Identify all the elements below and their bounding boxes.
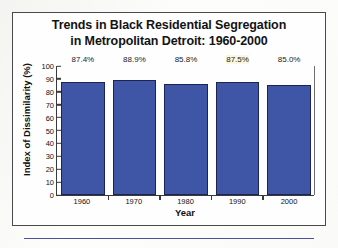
bar-value-label: 85.0%	[278, 55, 301, 64]
plot-frame: 0102030405060708090100 87.4%88.9%85.8%87…	[56, 66, 314, 196]
bar-value-label: 87.4%	[72, 55, 95, 64]
y-axis-tick-label: 30	[46, 152, 57, 161]
bar-slot: 87.5%	[216, 66, 260, 195]
chart-title-line-1: Trends in Black Residential Segregation	[13, 18, 325, 34]
x-axis-tick-label: 1960	[60, 197, 104, 206]
bar-value-label: 88.9%	[123, 55, 146, 64]
y-axis-tick-label: 40	[46, 139, 57, 148]
bar-1960[interactable]	[61, 82, 105, 195]
y-axis-tick-label: 10	[46, 178, 57, 187]
bar-slot: 85.0%	[267, 66, 311, 195]
x-axis-tick-label: 1990	[215, 197, 259, 206]
bar-1980[interactable]	[164, 84, 208, 195]
y-axis-tick-label: 60	[46, 113, 57, 122]
y-axis-tick-label: 90	[46, 74, 57, 83]
chart-title: Trends in Black Residential Segregation …	[13, 18, 325, 49]
x-axis-tick-labels: 19601970198019902000	[56, 197, 314, 206]
bar-slot: 87.4%	[61, 66, 105, 195]
x-axis-tick-label: 2000	[267, 197, 311, 206]
bar-value-label: 85.8%	[175, 55, 198, 64]
y-axis-tick-label: 70	[46, 100, 57, 109]
bar-2000[interactable]	[267, 85, 311, 195]
x-axis-tick-label: 1980	[164, 197, 208, 206]
bar-slot: 85.8%	[164, 66, 208, 195]
x-axis-tick-label: 1970	[112, 197, 156, 206]
bar-value-label: 87.5%	[226, 55, 249, 64]
plot-right-edge	[314, 66, 315, 195]
y-axis-tick-label: 50	[46, 126, 57, 135]
footer-rule	[24, 238, 314, 239]
bar-slot: 88.9%	[113, 66, 157, 195]
y-axis-tick-label: 80	[46, 87, 57, 96]
y-axis-tick-label: 100	[41, 62, 57, 71]
chart-plot-area: Index of Dissimilarity (%) 0102030405060…	[13, 58, 327, 227]
bar-1990[interactable]	[216, 82, 260, 195]
x-axis-title: Year	[56, 207, 314, 218]
chart-title-line-2: in Metropolitan Detroit: 1960-2000	[13, 34, 325, 50]
chart-figure: Trends in Black Residential Segregation …	[12, 12, 326, 226]
bar-1970[interactable]	[113, 80, 157, 195]
y-axis-title: Index of Dissimilarity (%)	[21, 60, 32, 180]
y-axis-tick-label: 20	[46, 165, 57, 174]
bar-series: 87.4%88.9%85.8%87.5%85.0%	[57, 66, 314, 195]
